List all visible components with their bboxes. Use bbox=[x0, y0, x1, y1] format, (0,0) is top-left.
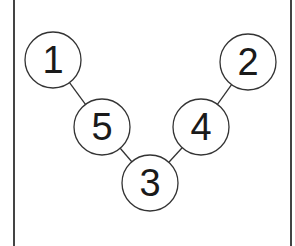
node-label: 4 bbox=[190, 106, 211, 148]
tree-diagram: 12543 bbox=[0, 0, 295, 246]
edge-1-5 bbox=[70, 83, 86, 105]
edge-4-2 bbox=[217, 85, 231, 105]
node-4: 4 bbox=[173, 99, 229, 155]
node-1: 1 bbox=[25, 32, 81, 88]
node-3: 3 bbox=[122, 155, 178, 211]
node-2: 2 bbox=[220, 34, 276, 90]
edge-5-3 bbox=[120, 148, 132, 161]
node-label: 5 bbox=[91, 106, 112, 148]
edge-3-4 bbox=[169, 148, 182, 163]
node-label: 2 bbox=[237, 41, 258, 83]
node-5: 5 bbox=[74, 99, 130, 155]
node-label: 3 bbox=[139, 162, 160, 204]
node-label: 1 bbox=[42, 39, 63, 81]
